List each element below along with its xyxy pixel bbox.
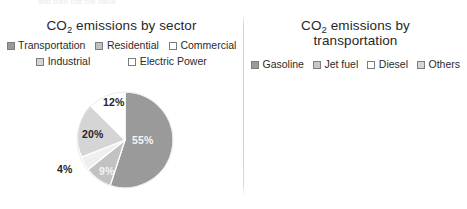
legend-swatch-jet-fuel xyxy=(313,61,321,69)
legend-transportation: Gasoline Jet fuel Diesel Others xyxy=(244,58,467,71)
legend-item-electric-power[interactable]: Electric Power xyxy=(128,55,207,68)
legend-label-residential: Residential xyxy=(107,39,159,52)
legend-swatch-transportation xyxy=(7,42,15,50)
legend-swatch-industrial xyxy=(36,58,44,66)
legend-swatch-commercial xyxy=(169,42,177,50)
legend-item-jet-fuel[interactable]: Jet fuel xyxy=(313,58,358,71)
chart-title-sector: CO2 emissions by sector xyxy=(0,18,243,33)
chart-title-transportation: CO2 emissions by transportation xyxy=(244,18,467,48)
pie-label-industrial: 20% xyxy=(82,128,104,140)
legend-swatch-electric-power xyxy=(128,58,136,66)
legend-label-transportation: Transportation xyxy=(18,39,85,52)
pie-chart-sector: 55% 9% 4% 20% 12% xyxy=(77,92,173,188)
legend-label-commercial: Commercial xyxy=(180,39,236,52)
chart-panel-transportation: CO2 emissions by transportation Gasoline… xyxy=(244,0,467,209)
pie-label-electric-power: 12% xyxy=(103,96,125,108)
legend-item-others[interactable]: Others xyxy=(417,58,460,71)
legend-swatch-others xyxy=(417,61,425,69)
legend-label-industrial: Industrial xyxy=(48,55,91,68)
chart-title-sector-rest: emissions by sector xyxy=(72,18,196,33)
legend-item-residential[interactable]: Residential xyxy=(95,39,158,52)
legend-label-gasoline: Gasoline xyxy=(262,58,303,71)
legend-swatch-residential xyxy=(95,42,103,50)
chart-title-transportation-line2: transportation xyxy=(314,33,398,48)
legend-item-industrial[interactable]: Industrial xyxy=(36,55,128,68)
legend-label-electric-power: Electric Power xyxy=(140,55,207,68)
pie-label-residential: 9% xyxy=(99,165,115,177)
legend-label-jet-fuel: Jet fuel xyxy=(324,58,358,71)
chart-panel-sector: CO2 emissions by sector Transportation R… xyxy=(0,0,243,209)
figure-two-pie-charts: and then use the value CO2 emissions by … xyxy=(0,0,467,209)
legend-label-diesel: Diesel xyxy=(379,58,408,71)
pie-label-transportation: 55% xyxy=(132,134,154,146)
legend-label-others: Others xyxy=(428,58,460,71)
chart-title-transportation-prefix: CO xyxy=(301,18,321,33)
legend-swatch-diesel xyxy=(367,61,375,69)
chart-title-transportation-subscript: 2 xyxy=(321,24,326,35)
chart-title-transportation-rest: emissions by xyxy=(327,18,410,33)
legend-swatch-gasoline xyxy=(251,61,259,69)
legend-sector: Transportation Residential Commercial In… xyxy=(0,39,243,68)
pie-label-commercial: 4% xyxy=(57,163,73,175)
chart-title-sector-prefix: CO xyxy=(46,18,66,33)
chart-title-sector-subscript: 2 xyxy=(67,24,72,35)
legend-item-diesel[interactable]: Diesel xyxy=(367,58,408,71)
legend-item-transportation[interactable]: Transportation xyxy=(7,39,86,52)
legend-item-gasoline[interactable]: Gasoline xyxy=(251,58,304,71)
legend-item-commercial[interactable]: Commercial xyxy=(169,39,237,52)
